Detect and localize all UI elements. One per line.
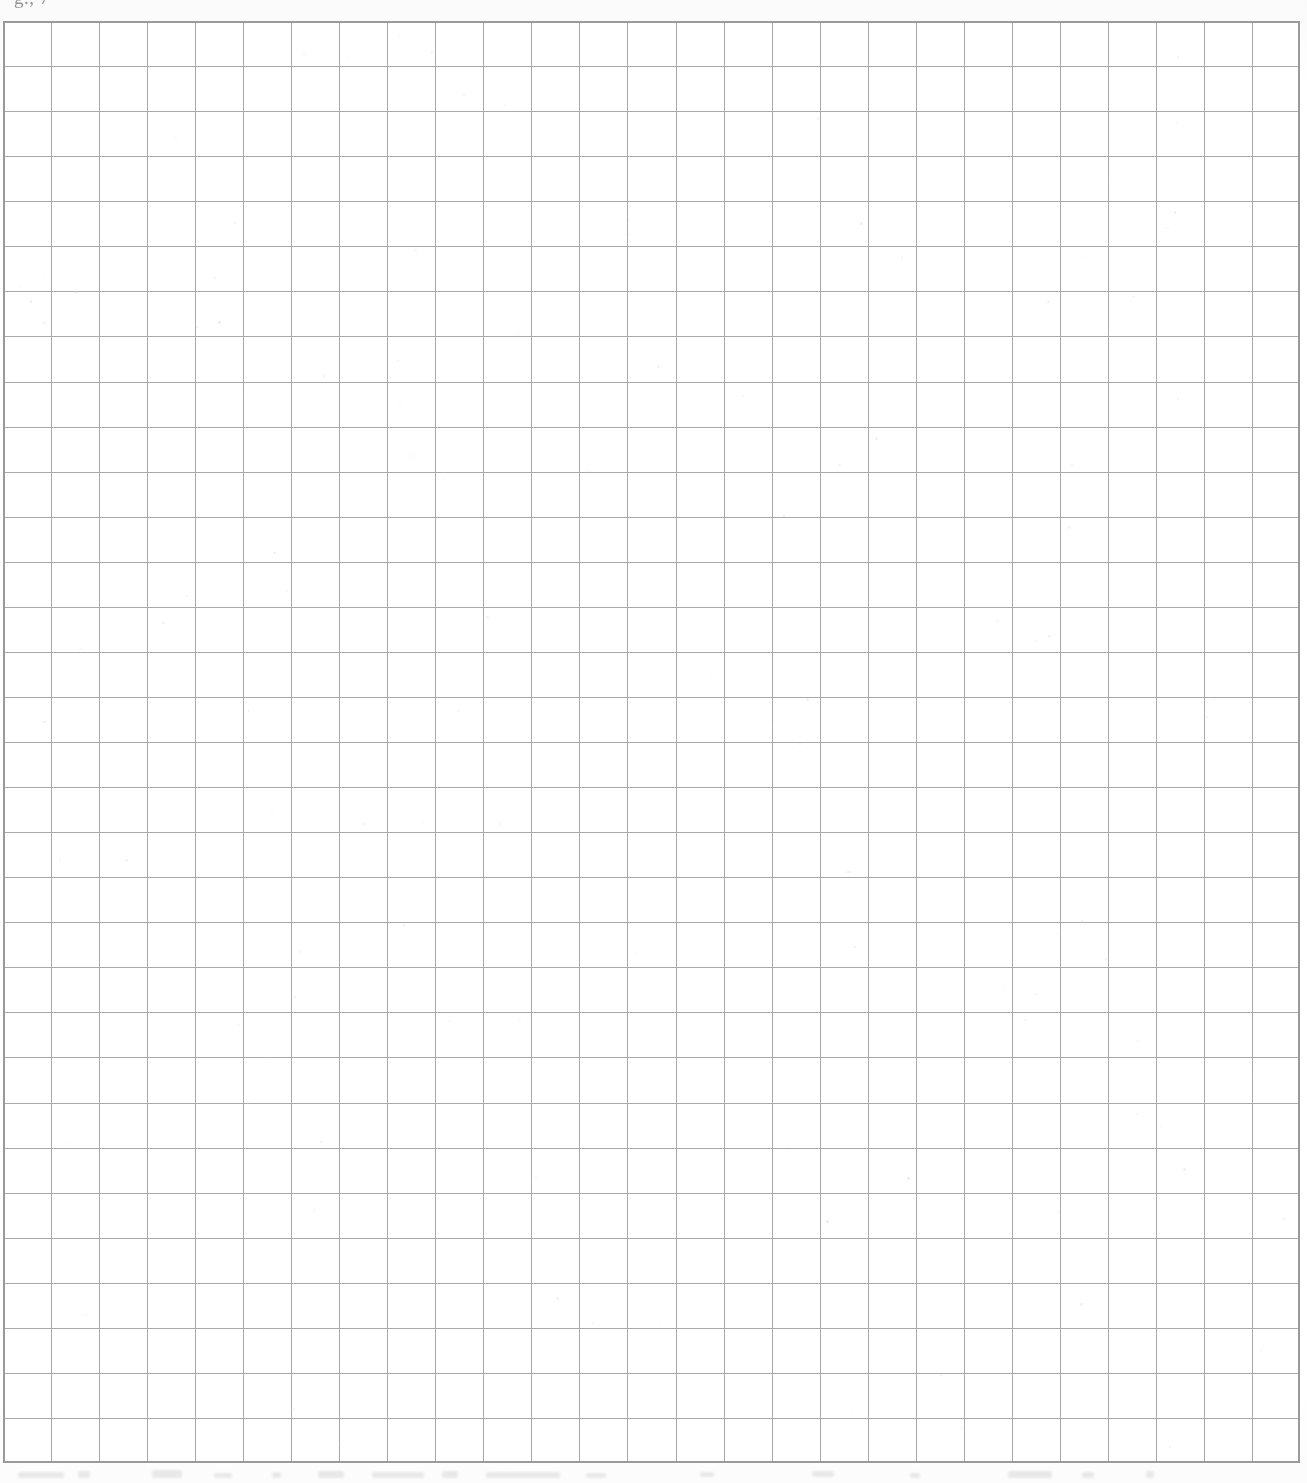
scan-smudge xyxy=(272,1472,281,1478)
header-text-fragment: g., 7 xyxy=(0,0,1307,9)
scan-smudge xyxy=(1082,1472,1094,1478)
scan-smudge xyxy=(700,1472,714,1477)
header-fragment-label: g., 7 xyxy=(0,0,50,9)
scan-smudge xyxy=(1146,1471,1154,1478)
scanned-page: g., 7 xyxy=(0,0,1307,1483)
scan-smudge xyxy=(1008,1471,1052,1478)
scan-artifacts-bottom xyxy=(0,1468,1307,1483)
grid-lines xyxy=(3,21,1300,1463)
scan-smudge xyxy=(78,1471,90,1478)
scan-smudge xyxy=(18,1472,64,1478)
scan-smudge xyxy=(442,1471,458,1478)
scan-smudge xyxy=(214,1473,232,1478)
scan-smudge xyxy=(372,1472,424,1478)
scan-smudge xyxy=(812,1471,834,1477)
scan-smudge xyxy=(486,1472,560,1478)
scan-smudge xyxy=(586,1473,606,1478)
scan-smudge xyxy=(318,1471,344,1478)
scan-smudge xyxy=(910,1473,920,1478)
grid-paper xyxy=(3,21,1300,1463)
scan-smudge xyxy=(152,1470,182,1478)
